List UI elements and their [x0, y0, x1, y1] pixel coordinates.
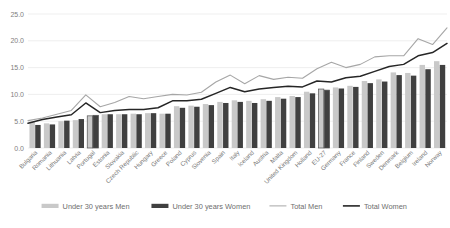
bar	[136, 114, 141, 148]
bar	[339, 89, 344, 149]
x-axis-tick-label: Holland	[293, 148, 313, 168]
x-axis-tick-labels: BulgariaRomaniaLithuaniaLatviaPortugalEs…	[17, 148, 443, 185]
bar	[396, 75, 401, 148]
bar	[295, 97, 300, 148]
bar	[58, 121, 63, 148]
bar	[87, 116, 92, 148]
legend-label: Total Women	[364, 202, 407, 211]
y-axis-tick-label: 20.0	[10, 37, 24, 44]
bar	[93, 115, 98, 148]
bar	[376, 79, 381, 148]
x-axis-tick-label: Spain	[210, 148, 227, 165]
bar-series-group	[29, 61, 445, 148]
chart-canvas: 0.05.010.015.020.025.0 BulgariaRomaniaLi…	[0, 0, 450, 228]
bar	[405, 73, 410, 148]
bar	[252, 103, 257, 148]
bar	[29, 122, 34, 148]
bar	[159, 114, 164, 148]
bar	[434, 61, 439, 148]
bar	[44, 123, 49, 148]
bar	[194, 107, 199, 148]
y-axis-tick-label: 25.0	[10, 11, 24, 18]
legend-label: Under 30 years Women	[172, 202, 250, 211]
bar	[122, 114, 127, 148]
bar	[324, 90, 329, 148]
bar	[209, 105, 214, 148]
bar	[73, 120, 78, 148]
bar	[275, 97, 280, 148]
x-axis-tick-label: Norway	[423, 148, 443, 168]
chart-container: 0.05.010.015.020.025.0 BulgariaRomaniaLi…	[0, 0, 450, 228]
bar	[145, 113, 150, 148]
bar	[79, 119, 84, 148]
bar	[362, 81, 367, 148]
bar	[347, 86, 352, 148]
bar	[165, 114, 170, 148]
bar	[238, 102, 243, 148]
bar	[180, 108, 185, 148]
bar	[116, 114, 121, 148]
bar	[310, 93, 315, 148]
bar	[174, 106, 179, 148]
bar	[203, 104, 208, 148]
y-axis-tick-label: 10.0	[10, 91, 24, 98]
legend-marker-bar	[151, 204, 168, 208]
bar	[266, 101, 271, 148]
legend-label: Total Men	[290, 202, 322, 211]
bar	[318, 89, 323, 148]
bar	[281, 99, 286, 148]
y-axis-tick-label: 5.0	[14, 118, 24, 125]
legend-marker-bar	[42, 204, 59, 208]
y-axis-tick-label: 15.0	[10, 64, 24, 71]
bar	[425, 69, 430, 148]
bar	[223, 103, 228, 148]
bar	[353, 87, 358, 148]
bar	[411, 76, 416, 148]
bar	[64, 121, 69, 148]
bar	[333, 87, 338, 148]
bar	[290, 96, 295, 148]
bar	[107, 114, 112, 148]
bar	[50, 124, 55, 148]
bar	[304, 92, 309, 148]
bar	[246, 101, 251, 148]
y-axis-tick-label: 0.0	[14, 145, 24, 152]
bar	[261, 99, 266, 148]
chart-legend: Under 30 years MenUnder 30 years WomenTo…	[42, 202, 407, 211]
bar	[217, 102, 222, 148]
bar	[151, 113, 156, 148]
bar	[232, 100, 237, 148]
bar	[131, 114, 136, 148]
bar	[188, 106, 193, 148]
legend-label: Under 30 years Men	[63, 202, 130, 211]
bar	[102, 114, 107, 148]
bar	[35, 125, 40, 148]
bar	[440, 65, 445, 148]
bar	[391, 72, 396, 148]
bar	[420, 65, 425, 148]
bar	[368, 83, 373, 148]
bar	[382, 82, 387, 148]
x-axis-tick-label: Austria	[251, 148, 270, 167]
y-axis-tick-labels: 0.05.010.015.020.025.0	[10, 11, 24, 152]
